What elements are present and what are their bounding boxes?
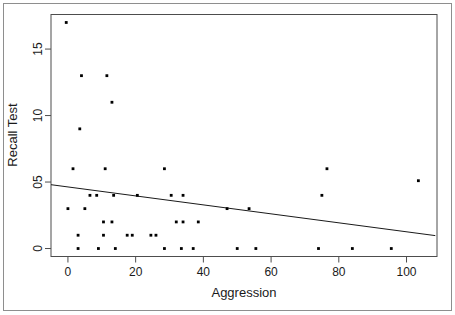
data-point <box>78 127 81 130</box>
data-point <box>317 247 320 250</box>
data-point <box>111 221 114 224</box>
x-tick-label: 80 <box>332 265 346 279</box>
data-point <box>77 247 80 250</box>
data-point <box>83 207 86 210</box>
data-point <box>163 167 166 170</box>
x-tick-label: 40 <box>197 265 211 279</box>
x-tick-label: 60 <box>264 265 278 279</box>
data-point <box>149 234 152 237</box>
data-point <box>182 221 185 224</box>
data-point <box>114 247 117 250</box>
data-point <box>170 194 173 197</box>
data-point <box>226 207 229 210</box>
data-point <box>320 194 323 197</box>
data-point <box>126 234 129 237</box>
x-axis-ticks <box>68 257 407 263</box>
data-point <box>155 234 158 237</box>
y-tick-label: 05 <box>31 175 45 189</box>
data-point <box>105 74 108 77</box>
regression-line-segment <box>51 185 435 236</box>
x-tick-label: 0 <box>65 265 72 279</box>
y-tick-label: 10 <box>31 109 45 123</box>
y-axis-ticks <box>45 49 51 248</box>
data-point <box>67 207 70 210</box>
data-point <box>97 247 100 250</box>
data-point <box>102 234 105 237</box>
data-point <box>89 194 92 197</box>
data-point <box>80 74 83 77</box>
data-point <box>111 101 114 104</box>
data-point <box>131 234 134 237</box>
data-point <box>77 234 80 237</box>
data-point <box>95 194 98 197</box>
data-point <box>254 247 257 250</box>
y-axis-tick-labels: 0051015 <box>31 42 45 252</box>
data-point <box>112 194 115 197</box>
y-tick-label: 0 <box>31 245 45 252</box>
data-point <box>390 247 393 250</box>
plot-frame-rect <box>51 15 437 257</box>
data-point <box>163 247 166 250</box>
data-point <box>104 167 107 170</box>
data-point <box>197 221 200 224</box>
data-point <box>175 221 178 224</box>
x-tick-label: 20 <box>129 265 143 279</box>
data-point <box>351 247 354 250</box>
scatter-plot-figure: 020406080100 0051015 Aggression Recall T… <box>0 0 455 315</box>
data-point <box>136 194 139 197</box>
data-point <box>102 221 105 224</box>
y-tick-label: 15 <box>31 42 45 56</box>
data-point <box>236 247 239 250</box>
data-point <box>65 21 68 24</box>
data-point <box>326 167 329 170</box>
data-point <box>180 247 183 250</box>
data-point <box>417 179 420 182</box>
x-tick-label: 100 <box>397 265 417 279</box>
data-point <box>182 194 185 197</box>
data-point-series <box>65 21 420 250</box>
y-axis-title: Recall Test <box>5 103 20 167</box>
x-axis-tick-labels: 020406080100 <box>65 265 417 279</box>
plot-canvas: 020406080100 0051015 Aggression Recall T… <box>0 0 455 315</box>
data-point <box>248 207 251 210</box>
data-point <box>72 167 75 170</box>
x-axis-title: Aggression <box>211 285 276 300</box>
plot-frame <box>51 15 437 257</box>
data-point <box>192 247 195 250</box>
regression-line <box>51 185 435 236</box>
